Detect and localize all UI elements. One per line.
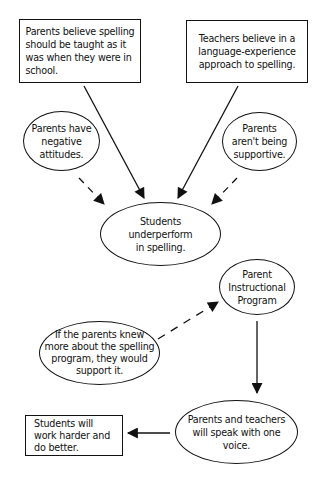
arrow-negative-attitudes-to-underperform xyxy=(79,178,104,204)
node-if-parents-knew-text: If the parents knew more about the spell… xyxy=(45,329,155,377)
node-negative-attitudes-text: Parents have negative attitudes. xyxy=(32,122,92,161)
node-if-parents-knew: If the parents knew more about the spell… xyxy=(39,321,160,385)
arrow-not-supportive-to-underperform xyxy=(212,178,237,204)
node-teachers-belief-text: Teachers believe in a language-experienc… xyxy=(198,32,296,71)
node-not-supportive-text: Parents aren't being supportive. xyxy=(232,122,287,161)
concept-map: Parents believe spelling should be taugh… xyxy=(0,0,323,487)
node-work-harder-text: Students will work harder and do better. xyxy=(34,418,110,454)
node-one-voice-text: Parents and teachers will speak with one… xyxy=(188,413,286,452)
node-instructional-program: Parent Instructional Program xyxy=(219,259,295,315)
node-one-voice: Parents and teachers will speak with one… xyxy=(175,400,298,464)
node-teachers-belief: Teachers believe in a language-experienc… xyxy=(186,20,308,83)
node-underperform: Students underperform in spelling. xyxy=(100,202,221,266)
arrow-if-parents-knew-to-program xyxy=(158,302,218,339)
node-negative-attitudes: Parents have negative attitudes. xyxy=(23,111,100,171)
node-not-supportive: Parents aren't being supportive. xyxy=(222,112,297,171)
node-parents-belief-text: Parents believe spelling should be taugh… xyxy=(26,25,135,77)
node-underperform-text: Students underperform in spelling. xyxy=(128,215,192,254)
node-work-harder: Students will work harder and do better. xyxy=(25,415,123,456)
node-instructional-program-text: Parent Instructional Program xyxy=(228,268,285,307)
node-parents-belief: Parents believe spelling should be taugh… xyxy=(19,19,141,83)
